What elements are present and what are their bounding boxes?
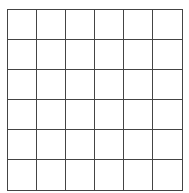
grid-cell[interactable] [153, 70, 182, 100]
grid-cell[interactable] [95, 70, 124, 100]
grid-cell[interactable] [66, 100, 95, 130]
grid-cell[interactable] [95, 10, 124, 40]
grid-cell[interactable] [37, 130, 66, 160]
grid-cell[interactable] [8, 100, 37, 130]
grid-cell[interactable] [124, 160, 153, 190]
grid-cell[interactable] [8, 10, 37, 40]
grid-cell[interactable] [153, 40, 182, 70]
grid-cell[interactable] [8, 160, 37, 190]
grid-cell[interactable] [124, 130, 153, 160]
grid-cell[interactable] [124, 40, 153, 70]
grid-cell[interactable] [66, 10, 95, 40]
grid-cell[interactable] [66, 40, 95, 70]
grid-cell[interactable] [8, 70, 37, 100]
grid-cell[interactable] [95, 40, 124, 70]
empty-grid [7, 9, 183, 191]
grid-cell[interactable] [153, 130, 182, 160]
grid-cell[interactable] [124, 10, 153, 40]
grid-cell[interactable] [37, 40, 66, 70]
grid-cell[interactable] [153, 10, 182, 40]
grid-cell[interactable] [95, 100, 124, 130]
grid-cell[interactable] [124, 100, 153, 130]
grid-cell[interactable] [8, 130, 37, 160]
grid-cell[interactable] [153, 160, 182, 190]
grid-cell[interactable] [124, 70, 153, 100]
grid-cell[interactable] [37, 100, 66, 130]
grid-cell[interactable] [95, 130, 124, 160]
grid-cell[interactable] [37, 10, 66, 40]
grid-cell[interactable] [66, 130, 95, 160]
grid-cell[interactable] [66, 160, 95, 190]
grid-cell[interactable] [66, 70, 95, 100]
grid-cell[interactable] [95, 160, 124, 190]
grid-cell[interactable] [8, 40, 37, 70]
grid-cell[interactable] [37, 70, 66, 100]
grid-cell[interactable] [153, 100, 182, 130]
grid-cell[interactable] [37, 160, 66, 190]
